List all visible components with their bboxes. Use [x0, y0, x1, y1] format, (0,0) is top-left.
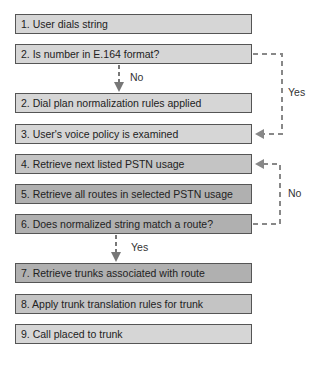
branch-label-e164-yes: Yes [288, 86, 305, 98]
step-5-box: 5. Retrieve all routes in selected PSTN … [15, 184, 252, 204]
step-7-label: 7. Retrieve trunks associated with route [21, 267, 205, 279]
step-1-label: 1. User dials string [21, 18, 108, 30]
step-4-box: 4. Retrieve next listed PSTN usage [15, 154, 252, 174]
step-5-label: 5. Retrieve all routes in selected PSTN … [21, 188, 233, 200]
arrow-e164-yes [253, 54, 282, 139]
step-3-label: 3. User's voice policy is examined [21, 128, 178, 140]
step-3-box: 3. User's voice policy is examined [15, 124, 252, 144]
step-7-box: 7. Retrieve trunks associated with route [15, 263, 252, 283]
step-2-decision-box: 2. Is number in E.164 format? [15, 44, 252, 64]
arrow-match-no [253, 159, 280, 224]
step-8-label: 8. Apply trunk translation rules for tru… [21, 298, 203, 310]
step-9-label: 9. Call placed to trunk [21, 328, 123, 340]
step-6-decision-box: 6. Does normalized string match a route? [15, 214, 252, 234]
step-normalization-label: 2. Dial plan normalization rules applied [21, 97, 201, 109]
step-4-label: 4. Retrieve next listed PSTN usage [21, 158, 184, 170]
branch-label-match-yes: Yes [131, 241, 148, 253]
step-normalization-box: 2. Dial plan normalization rules applied [15, 93, 252, 113]
branch-label-e164-no: No [130, 71, 143, 83]
step-6-label: 6. Does normalized string match a route? [21, 218, 213, 230]
step-8-box: 8. Apply trunk translation rules for tru… [15, 294, 252, 314]
arrow-e164-no [114, 65, 124, 92]
step-2-label: 2. Is number in E.164 format? [21, 48, 159, 60]
branch-label-match-no: No [288, 187, 301, 199]
step-1-box: 1. User dials string [15, 14, 252, 34]
step-9-box: 9. Call placed to trunk [15, 324, 252, 344]
arrow-match-yes [111, 235, 121, 262]
